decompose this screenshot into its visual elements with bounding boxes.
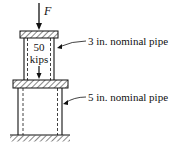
force-arrow-icon <box>36 3 42 30</box>
load-unit: kips <box>30 53 48 65</box>
upper-pipe-leader-icon <box>57 41 86 49</box>
top-cap-plate <box>20 31 58 38</box>
upper-pipe-label: 3 in. nominal pipe <box>88 35 168 47</box>
lower-pipe-label: 5 in. nominal pipe <box>88 91 168 103</box>
force-label: F <box>43 4 52 18</box>
middle-plate <box>13 80 68 88</box>
pipe-column-diagram: F 50 kips 3 in. nominal pipe 5 in. nomin… <box>0 0 179 155</box>
internal-load-arrow-icon <box>37 66 42 79</box>
load-value: 50 <box>34 41 46 53</box>
lower-pipe <box>18 88 62 135</box>
lower-pipe-leader-icon <box>63 97 86 105</box>
ground-support <box>10 135 70 142</box>
